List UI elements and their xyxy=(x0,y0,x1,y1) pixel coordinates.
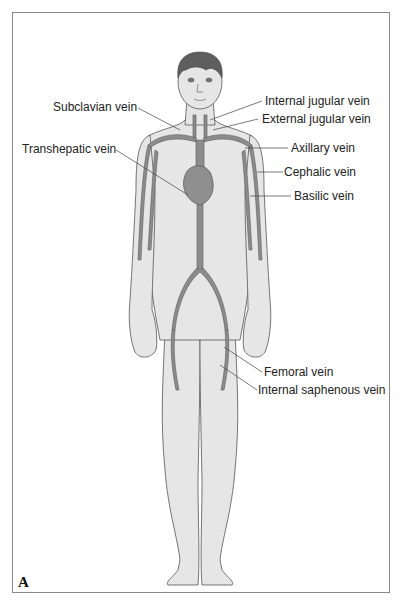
label-cephalic-vein: Cephalic vein xyxy=(284,165,356,179)
right-leg xyxy=(162,330,200,585)
label-internal-saphenous-vein: Internal saphenous vein xyxy=(258,383,385,397)
label-axillary-vein: Axillary vein xyxy=(291,141,355,155)
inferior-vena-cava xyxy=(197,200,203,270)
venous-anatomy-figure: Subclavian vein Internal jugular vein Ex… xyxy=(0,0,400,605)
right-internal-jugular xyxy=(193,115,196,140)
right-arm xyxy=(129,135,157,357)
label-transhepatic-vein: Transhepatic vein xyxy=(22,142,116,156)
label-basilic-vein: Basilic vein xyxy=(294,189,354,203)
label-femoral-vein: Femoral vein xyxy=(264,365,333,379)
label-subclavian-vein: Subclavian vein xyxy=(53,100,137,114)
label-external-jugular-vein: External jugular vein xyxy=(262,112,371,126)
panel-letter: A xyxy=(18,574,29,591)
left-internal-jugular xyxy=(204,115,207,140)
body-illustration xyxy=(0,0,400,605)
label-internal-jugular-vein: Internal jugular vein xyxy=(265,94,370,108)
body-outline xyxy=(129,55,271,585)
left-leg xyxy=(200,330,238,585)
leader-subclavian xyxy=(138,108,180,130)
leader-internal-jugular xyxy=(210,101,262,120)
left-arm xyxy=(243,135,271,357)
